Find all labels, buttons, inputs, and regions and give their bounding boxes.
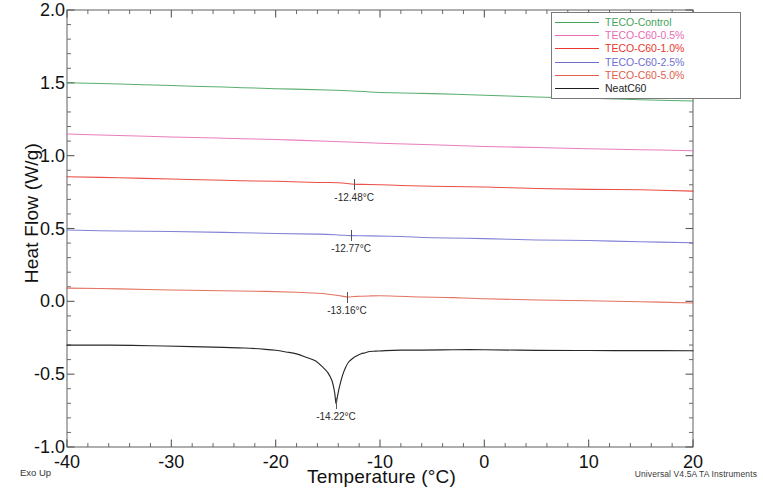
y-tick-label: 2.0 bbox=[5, 0, 65, 21]
legend-item: TECO-C60-1.0% bbox=[555, 42, 736, 55]
y-tick-label: 1.0 bbox=[5, 145, 65, 166]
peak-temperature-label: -12.48°C bbox=[334, 192, 374, 203]
series-line bbox=[67, 288, 693, 303]
legend-color-swatch bbox=[555, 22, 599, 23]
x-tick-label: 20 bbox=[653, 452, 733, 473]
peak-marker-icon bbox=[336, 398, 337, 409]
peak-temperature-label: -12.77°C bbox=[331, 243, 371, 254]
legend-color-swatch bbox=[555, 62, 599, 63]
legend-color-swatch bbox=[555, 88, 599, 89]
legend-item: TECO-C60-0.5% bbox=[555, 29, 736, 42]
x-tick-label: -10 bbox=[340, 452, 420, 473]
legend-label: TECO-C60-1.0% bbox=[605, 43, 684, 54]
y-tick-label: 1.5 bbox=[5, 72, 65, 93]
legend-color-swatch bbox=[555, 35, 599, 36]
legend-color-swatch bbox=[555, 48, 599, 49]
legend-item: TECO-C60-5.0% bbox=[555, 69, 736, 82]
legend-label: TECO-Control bbox=[605, 17, 672, 28]
legend-label: TECO-C60-2.5% bbox=[605, 57, 684, 68]
peak-marker-icon bbox=[354, 179, 355, 190]
peak-temperature-label: -13.16°C bbox=[327, 305, 367, 316]
peak-temperature-label: -14.22°C bbox=[316, 411, 356, 422]
legend-color-swatch bbox=[555, 75, 599, 76]
series-line bbox=[67, 230, 693, 243]
legend-label: TECO-C60-5.0% bbox=[605, 70, 684, 81]
peak-marker-icon bbox=[347, 292, 348, 303]
y-tick-label: -0.5 bbox=[5, 364, 65, 385]
peak-marker-icon bbox=[351, 230, 352, 241]
legend-label: NeatC60 bbox=[605, 83, 646, 94]
series-line bbox=[67, 345, 693, 403]
x-tick-label: -40 bbox=[27, 452, 107, 473]
legend-label: TECO-C60-0.5% bbox=[605, 30, 684, 41]
x-tick-label: 10 bbox=[549, 452, 629, 473]
x-tick-label: -20 bbox=[236, 452, 316, 473]
dsc-thermogram-figure: Heat Flow (W/g) Temperature (°C) Exo Up … bbox=[0, 0, 763, 489]
x-tick-label: -30 bbox=[131, 452, 211, 473]
legend: TECO-ControlTECO-C60-0.5%TECO-C60-1.0%TE… bbox=[551, 12, 741, 99]
legend-item: NeatC60 bbox=[555, 82, 736, 95]
y-tick-label: 0.5 bbox=[5, 218, 65, 239]
series-line bbox=[67, 134, 693, 151]
legend-item: TECO-C60-2.5% bbox=[555, 56, 736, 69]
legend-item: TECO-Control bbox=[555, 16, 736, 29]
y-tick-label: 0.0 bbox=[5, 291, 65, 312]
series-line bbox=[67, 177, 693, 191]
x-tick-label: 0 bbox=[444, 452, 524, 473]
